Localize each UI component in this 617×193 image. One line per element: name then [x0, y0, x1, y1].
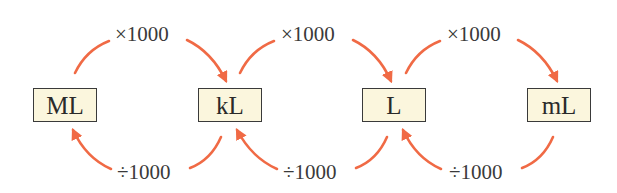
multiply-label-ml-to-kl: ×1000	[115, 24, 169, 45]
multiply-arrow-ml-kl-end	[187, 40, 226, 81]
divide-arrow-kl-ml-start	[190, 137, 221, 168]
unit-label: kL	[216, 93, 244, 118]
multiply-arrow-l-ml-end	[518, 40, 557, 81]
unit-label: ML	[46, 93, 84, 118]
unit-label: L	[386, 93, 401, 118]
divide-label-kl-to-ml: ÷1000	[117, 162, 171, 183]
unit-box-megalitre: ML	[33, 88, 97, 122]
unit-box-millilitre: mL	[527, 88, 591, 122]
divide-label-l-to-kl: ÷1000	[283, 162, 337, 183]
unit-conversion-diagram: ML kL L mL ×1000 ×1000 ×1000 ÷1000 ÷1000…	[0, 0, 617, 193]
divide-arrow-l-kl-end	[237, 130, 277, 169]
multiply-label-l-to-ml: ×1000	[447, 24, 501, 45]
divide-arrow-ml-l-start	[522, 137, 553, 168]
multiply-arrow-ml-kl-start	[75, 41, 109, 73]
divide-arrow-l-kl-start	[356, 137, 387, 168]
multiply-arrow-l-ml-start	[406, 41, 440, 73]
divide-label-ml-to-l: ÷1000	[449, 162, 503, 183]
unit-box-litre: L	[362, 88, 426, 122]
multiply-arrow-kl-l-start	[240, 41, 274, 73]
divide-arrow-ml-l-end	[403, 130, 441, 169]
unit-box-kilolitre: kL	[198, 88, 262, 122]
multiply-label-kl-to-l: ×1000	[281, 24, 335, 45]
unit-label: mL	[542, 93, 577, 118]
multiply-arrow-kl-l-end	[353, 40, 391, 81]
divide-arrow-kl-ml-end	[73, 130, 111, 169]
